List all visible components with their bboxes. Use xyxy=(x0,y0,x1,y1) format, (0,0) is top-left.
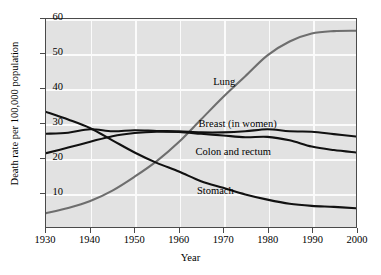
x-axis-tick-label: 2000 xyxy=(347,234,368,245)
x-axis-tick xyxy=(179,228,180,233)
y-axis-tick xyxy=(40,18,45,19)
y-axis-tick xyxy=(40,53,45,54)
y-axis-tick-label: 40 xyxy=(53,82,64,92)
x-axis-tick xyxy=(223,228,224,233)
x-axis-tick-label: 1950 xyxy=(124,234,145,245)
x-axis-tick xyxy=(134,228,135,233)
series-label-colon-and-rectum: Colon and rectum xyxy=(196,146,271,157)
x-axis-tick-label: 1980 xyxy=(257,234,278,245)
x-axis-tick xyxy=(312,228,313,233)
x-axis-tick-label: 1960 xyxy=(168,234,189,245)
x-axis-tick xyxy=(357,228,358,233)
series-label-stomach: Stomach xyxy=(197,185,234,196)
y-axis-title: Death rate per 100,000 population xyxy=(9,14,20,214)
x-axis-tick xyxy=(90,228,91,233)
x-axis-tick-label: 1990 xyxy=(302,234,323,245)
y-axis-tick xyxy=(40,123,45,124)
y-axis-tick-label: 30 xyxy=(53,117,64,127)
series-label-breast-in-women: Breast (in women) xyxy=(199,118,277,129)
plot-area: LungBreast (in women)Colon and rectumSto… xyxy=(45,18,357,228)
x-axis-tick xyxy=(268,228,269,233)
series-label-lung: Lung xyxy=(213,76,235,87)
y-axis-tick-label: 60 xyxy=(53,12,64,22)
y-axis-tick xyxy=(40,158,45,159)
y-axis-tick-label: 50 xyxy=(53,47,64,57)
y-axis-tick-label: 20 xyxy=(53,152,64,162)
x-axis-tick-label: 1970 xyxy=(213,234,234,245)
y-axis-tick xyxy=(40,193,45,194)
cancer-death-rate-line-chart: Death rate per 100,000 population LungBr… xyxy=(0,0,381,275)
x-axis-tick xyxy=(45,228,46,233)
x-axis-tick-label: 1940 xyxy=(79,234,100,245)
x-axis-title: Year xyxy=(0,252,381,263)
x-axis-tick-label: 1930 xyxy=(35,234,56,245)
y-axis-tick xyxy=(40,88,45,89)
y-axis-tick-label: 10 xyxy=(53,187,64,197)
